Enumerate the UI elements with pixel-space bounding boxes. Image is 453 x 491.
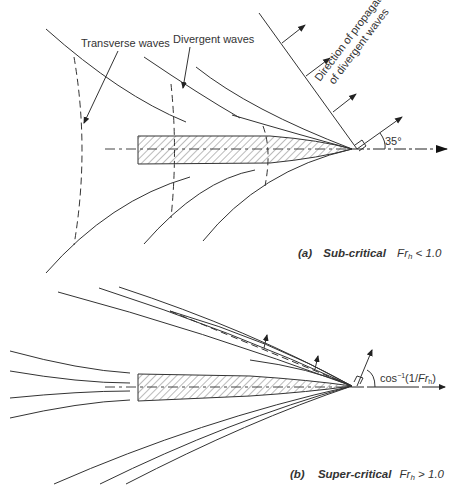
caption-b-condition: > 1.0: [415, 468, 445, 480]
angle-label-b: cos−1(1/Frh): [380, 372, 436, 385]
flow-line-left-3: [10, 391, 130, 398]
leader-divergent: [183, 47, 190, 88]
wake-line-upper-2: [99, 288, 352, 386]
ship-wake-diagram: 35° Transverse waves Divergent waves Dir…: [0, 0, 453, 491]
label-transverse-waves: Transverse waves: [81, 37, 170, 49]
caption-b-letter: (b): [290, 468, 305, 480]
panel-b-supercritical: cos−1(1/Frh) (b) Super-critical Frh > 1.…: [10, 287, 445, 484]
caption-b: (b) Super-critical Frh > 1.0: [290, 468, 445, 482]
angle-label-35: 35°: [385, 135, 402, 147]
propagation-arrow-b3: [357, 350, 372, 386]
angle-arc-b: [367, 370, 375, 387]
flow-line-left-4: [10, 400, 130, 418]
flow-line-left-2: [10, 371, 130, 383]
divergent-wave-lower-2: [144, 170, 255, 244]
propagation-arrow-3: [333, 94, 356, 112]
flow-line-left-1: [10, 351, 130, 373]
transverse-wave-1: [74, 57, 82, 245]
angle-open: (1/: [405, 372, 419, 384]
propagation-arrow-b1: [264, 335, 267, 348]
angle-sup: −1: [397, 372, 405, 379]
panel-a-subcritical: 35° Transverse waves Divergent waves Dir…: [46, 0, 447, 273]
label-divergent-waves: Divergent waves: [173, 33, 255, 45]
caption-a: (a) Sub-critical Frh < 1.0: [298, 247, 442, 261]
caption-a-regime: Sub-critical: [323, 247, 386, 259]
wave-crest-normal-line: [259, 13, 357, 149]
leader-transverse: [84, 51, 118, 123]
caption-a-letter: (a): [298, 247, 312, 259]
angle-cos: cos: [380, 372, 398, 384]
divergent-wave-lower-1: [46, 177, 190, 273]
angle-close: ): [432, 372, 436, 384]
caption-b-regime: Super-critical: [318, 468, 392, 480]
caption-a-condition: < 1.0: [412, 247, 442, 259]
propagation-arrow-1: [282, 25, 305, 43]
wake-line-upper-1: [58, 292, 352, 386]
